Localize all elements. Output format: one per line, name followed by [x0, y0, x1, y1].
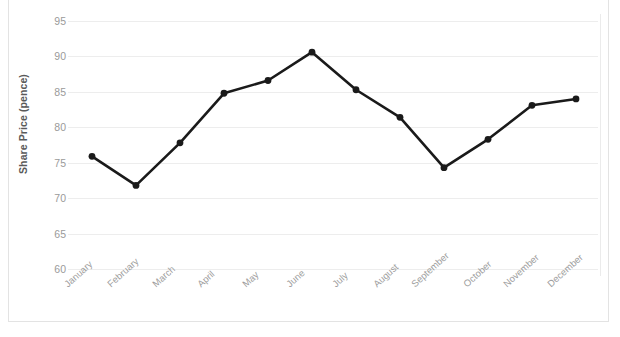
x-tick-label-december: December [545, 252, 585, 290]
gridline-75 [68, 163, 598, 164]
data-point-march [177, 139, 184, 146]
x-tick-label-june: June [284, 267, 307, 289]
series-line-share-price [92, 52, 576, 185]
x-tick-label-july: July [330, 270, 350, 289]
chart-title [150, 0, 470, 9]
gridline-65 [68, 234, 598, 235]
data-point-february [133, 182, 140, 189]
line-chart: Share Price (pence) 95 90 85 80 75 70 65… [0, 0, 620, 337]
series-layer [0, 0, 620, 337]
x-tick-label-february: February [105, 256, 141, 290]
data-point-may [265, 77, 272, 84]
data-point-october [485, 136, 492, 143]
y-tick-label-85: 85 [40, 87, 66, 97]
x-tick-label-may: May [240, 269, 261, 289]
x-tick-label-november: November [501, 252, 541, 290]
data-point-december [573, 96, 580, 103]
data-point-january [89, 153, 96, 160]
gridline-70 [68, 198, 598, 199]
series-markers [89, 49, 580, 189]
data-point-august [397, 114, 404, 121]
gridline-95 [68, 21, 598, 22]
x-tick-label-august: August [371, 261, 400, 289]
y-tick-label-80: 80 [40, 122, 66, 132]
plot-right-border [600, 14, 601, 276]
data-point-september [441, 164, 448, 171]
x-tick-label-april: April [195, 268, 216, 289]
x-tick-label-january: January [62, 258, 94, 289]
y-tick-label-70: 70 [40, 193, 66, 203]
gridline-90 [68, 56, 598, 57]
x-tick-label-march: March [150, 263, 177, 289]
x-tick-label-october: October [461, 258, 493, 289]
y-tick-label-95: 95 [40, 16, 66, 26]
y-axis-title: Share Price (pence) [17, 39, 29, 209]
y-tick-label-75: 75 [40, 158, 66, 168]
data-point-april [221, 90, 228, 97]
gridline-85 [68, 92, 598, 93]
data-point-november [529, 102, 536, 109]
y-tick-label-60: 60 [40, 264, 66, 274]
y-tick-label-65: 65 [40, 229, 66, 239]
gridline-80 [68, 127, 598, 128]
y-tick-label-90: 90 [40, 51, 66, 61]
data-point-june [309, 49, 316, 56]
